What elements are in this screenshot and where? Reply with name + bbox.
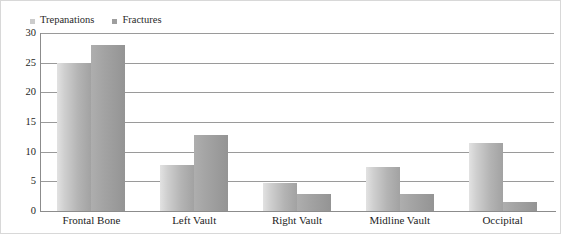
y-axis-tick-label: 25 xyxy=(6,58,36,69)
bar-fractures-midline-vault[interactable] xyxy=(400,194,434,211)
legend-entry[interactable]: Trepanations xyxy=(30,15,94,26)
x-axis-category-label: Occipital xyxy=(451,213,554,228)
bar-group xyxy=(263,33,331,211)
x-axis-category-labels: Frontal BoneLeft VaultRight VaultMidline… xyxy=(40,213,554,233)
bar-group xyxy=(57,33,125,211)
x-axis-category-label: Right Vault xyxy=(246,213,349,228)
bar-fractures-right-vault[interactable] xyxy=(297,194,331,211)
bar-trepanations-right-vault[interactable] xyxy=(263,183,297,211)
bar-chart: TrepanationsFractures 051015202530 Front… xyxy=(0,0,561,234)
bar-fractures-left-vault[interactable] xyxy=(194,135,228,211)
y-axis-tick-label: 20 xyxy=(6,87,36,98)
x-axis-category-label: Frontal Bone xyxy=(40,213,143,228)
bar-group xyxy=(366,33,434,211)
chart-legend: TrepanationsFractures xyxy=(30,13,162,27)
bar-group xyxy=(469,33,537,211)
x-axis-category-label: Left Vault xyxy=(143,213,246,228)
x-axis-category-label: Midline Vault xyxy=(348,213,451,228)
bar-group xyxy=(160,33,228,211)
bar-fractures-frontal-bone[interactable] xyxy=(91,45,125,211)
bar-trepanations-occipital[interactable] xyxy=(469,143,503,211)
legend-swatch-icon xyxy=(30,19,35,24)
y-axis-tick-label: 0 xyxy=(6,206,36,217)
legend-entry[interactable]: Fractures xyxy=(112,15,161,26)
legend-swatch-icon xyxy=(112,19,117,24)
y-axis-tick-labels: 051015202530 xyxy=(4,33,36,211)
y-axis-tick-label: 10 xyxy=(6,147,36,158)
y-axis-tick-label: 5 xyxy=(6,176,36,187)
legend-label: Fractures xyxy=(122,15,161,26)
bars-layer xyxy=(40,33,554,211)
y-axis-tick-label: 30 xyxy=(6,28,36,39)
bar-fractures-occipital[interactable] xyxy=(503,202,537,211)
bar-trepanations-left-vault[interactable] xyxy=(160,165,194,211)
y-axis-tick-label: 15 xyxy=(6,117,36,128)
legend-label: Trepanations xyxy=(40,15,94,26)
bar-trepanations-midline-vault[interactable] xyxy=(366,167,400,212)
x-axis-line xyxy=(40,211,556,212)
bar-trepanations-frontal-bone[interactable] xyxy=(57,63,91,211)
